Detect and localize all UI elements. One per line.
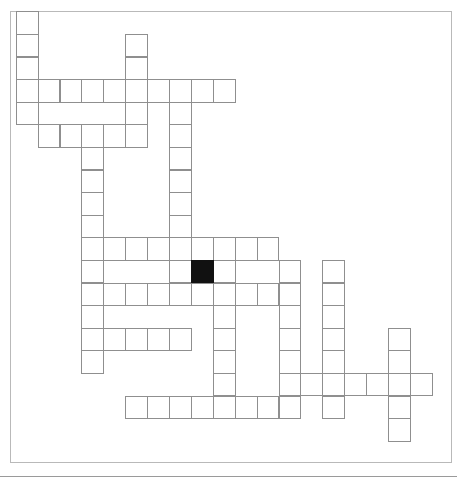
- crossword-cell[interactable]: [279, 373, 302, 397]
- crossword-cell[interactable]: [213, 237, 236, 261]
- crossword-cell[interactable]: [191, 79, 214, 103]
- crossword-cell[interactable]: [366, 373, 389, 397]
- crossword-cell[interactable]: [322, 305, 345, 329]
- crossword-cell[interactable]: [103, 283, 126, 307]
- crossword-cell[interactable]: [388, 373, 411, 397]
- crossword-cell[interactable]: [279, 396, 302, 420]
- crossword-cell[interactable]: [322, 350, 345, 374]
- crossword-cell[interactable]: [16, 11, 39, 35]
- crossword-cell[interactable]: [125, 102, 148, 126]
- crossword-cell[interactable]: [388, 418, 411, 442]
- crossword-cell[interactable]: [147, 328, 170, 352]
- crossword-cell[interactable]: [81, 124, 104, 148]
- crossword-cell[interactable]: [147, 283, 170, 307]
- crossword-cell[interactable]: [213, 373, 236, 397]
- crossword-cell[interactable]: [81, 305, 104, 329]
- crossword-cell[interactable]: [81, 192, 104, 216]
- crossword-cell[interactable]: [125, 57, 148, 81]
- crossword-cell[interactable]: [81, 79, 104, 103]
- crossword-cell[interactable]: [213, 283, 236, 307]
- crossword-cell[interactable]: [38, 79, 61, 103]
- crossword-cell[interactable]: [279, 260, 302, 284]
- crossword-cell[interactable]: [344, 373, 367, 397]
- page-bottom-divider: [0, 476, 457, 477]
- crossword-cell[interactable]: [257, 396, 280, 420]
- crossword-cell[interactable]: [388, 328, 411, 352]
- crossword-cell[interactable]: [279, 350, 302, 374]
- crossword-cell[interactable]: [125, 79, 148, 103]
- crossword-cell[interactable]: [147, 237, 170, 261]
- crossword-cell[interactable]: [169, 260, 192, 284]
- crossword-cell[interactable]: [388, 396, 411, 420]
- crossword-cell[interactable]: [169, 328, 192, 352]
- crossword-cell[interactable]: [213, 79, 236, 103]
- crossword-block-cell: [191, 260, 214, 284]
- crossword-cell[interactable]: [322, 283, 345, 307]
- crossword-cell[interactable]: [300, 373, 323, 397]
- crossword-cell[interactable]: [169, 192, 192, 216]
- crossword-cell[interactable]: [169, 124, 192, 148]
- crossword-cell[interactable]: [169, 147, 192, 171]
- crossword-cell[interactable]: [191, 396, 214, 420]
- crossword-cell[interactable]: [169, 283, 192, 307]
- crossword-cell[interactable]: [322, 373, 345, 397]
- crossword-cell[interactable]: [103, 79, 126, 103]
- crossword-cell[interactable]: [60, 79, 83, 103]
- crossword-cell[interactable]: [81, 350, 104, 374]
- crossword-cell[interactable]: [125, 328, 148, 352]
- crossword-cell[interactable]: [169, 396, 192, 420]
- crossword-cell[interactable]: [169, 237, 192, 261]
- crossword-cell[interactable]: [257, 283, 280, 307]
- crossword-cell[interactable]: [81, 328, 104, 352]
- crossword-cell[interactable]: [81, 170, 104, 194]
- crossword-cell[interactable]: [388, 350, 411, 374]
- crossword-cell[interactable]: [38, 124, 61, 148]
- crossword-cell[interactable]: [235, 283, 258, 307]
- crossword-cell[interactable]: [125, 396, 148, 420]
- crossword-cell[interactable]: [322, 396, 345, 420]
- crossword-cell[interactable]: [213, 260, 236, 284]
- crossword-cell[interactable]: [257, 237, 280, 261]
- crossword-cell[interactable]: [213, 328, 236, 352]
- crossword-cell[interactable]: [279, 328, 302, 352]
- crossword-cell[interactable]: [16, 79, 39, 103]
- crossword-cell[interactable]: [103, 328, 126, 352]
- crossword-cell[interactable]: [147, 79, 170, 103]
- crossword-cell[interactable]: [147, 396, 170, 420]
- crossword-cell[interactable]: [169, 79, 192, 103]
- crossword-cell[interactable]: [169, 215, 192, 239]
- crossword-cell[interactable]: [81, 283, 104, 307]
- crossword-cell[interactable]: [279, 283, 302, 307]
- crossword-cell[interactable]: [103, 237, 126, 261]
- crossword-cell[interactable]: [213, 396, 236, 420]
- crossword-cell[interactable]: [60, 124, 83, 148]
- crossword-cell[interactable]: [322, 260, 345, 284]
- crossword-cell[interactable]: [125, 124, 148, 148]
- crossword-cell[interactable]: [235, 237, 258, 261]
- crossword-cell[interactable]: [16, 102, 39, 126]
- crossword-cell[interactable]: [125, 283, 148, 307]
- crossword-cell[interactable]: [103, 124, 126, 148]
- crossword-cell[interactable]: [16, 57, 39, 81]
- crossword-cell[interactable]: [81, 147, 104, 171]
- crossword-cell[interactable]: [169, 170, 192, 194]
- crossword-cell[interactable]: [81, 215, 104, 239]
- crossword-cell[interactable]: [213, 305, 236, 329]
- puzzle-title-text: [175, 0, 290, 3]
- crossword-cell[interactable]: [16, 34, 39, 58]
- crossword-cell[interactable]: [81, 237, 104, 261]
- crossword-cell[interactable]: [191, 283, 214, 307]
- crossword-cell[interactable]: [81, 260, 104, 284]
- puzzle-title-clipped: [175, 0, 290, 3]
- crossword-cell[interactable]: [410, 373, 433, 397]
- crossword-cell[interactable]: [125, 34, 148, 58]
- crossword-cell[interactable]: [213, 350, 236, 374]
- crossword-cell[interactable]: [235, 396, 258, 420]
- crossword-cell[interactable]: [279, 305, 302, 329]
- crossword-cell[interactable]: [191, 237, 214, 261]
- crossword-cell[interactable]: [322, 328, 345, 352]
- crossword-cell[interactable]: [125, 237, 148, 261]
- crossword-cell[interactable]: [169, 102, 192, 126]
